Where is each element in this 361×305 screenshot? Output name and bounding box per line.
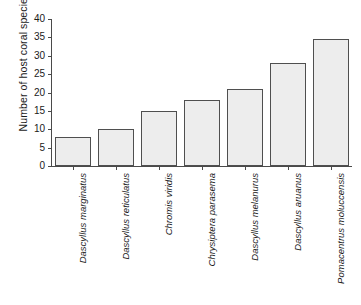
y-tick-label: 20 xyxy=(34,88,45,98)
bar xyxy=(313,39,349,166)
plot-area: 0510152025303540 Dascyllus marginatusDas… xyxy=(52,19,352,166)
x-category-label: Dascyllus aruanus xyxy=(292,173,303,251)
y-tick-label: 15 xyxy=(34,106,45,116)
bar xyxy=(98,129,134,166)
y-tick-label: 40 xyxy=(34,14,45,24)
y-tick-mark xyxy=(48,19,52,20)
bar xyxy=(270,63,306,166)
x-tick-mark xyxy=(245,166,246,170)
bar xyxy=(55,137,91,166)
y-tick-mark xyxy=(48,166,52,167)
y-tick-label: 25 xyxy=(34,69,45,79)
y-axis-title: Number of host coral species xyxy=(17,0,29,147)
y-tick-label: 10 xyxy=(34,124,45,134)
y-tick-mark xyxy=(48,93,52,94)
bar xyxy=(227,89,263,166)
y-tick-mark xyxy=(48,111,52,112)
x-tick-mark xyxy=(288,166,289,170)
y-tick-label: 35 xyxy=(34,32,45,42)
x-tick-mark xyxy=(116,166,117,170)
y-tick-mark xyxy=(48,37,52,38)
x-tick-mark xyxy=(202,166,203,170)
y-tick-label: 0 xyxy=(39,161,45,171)
x-tick-mark xyxy=(159,166,160,170)
x-category-label: Chrysiptera parasema xyxy=(206,173,217,266)
x-category-label: Pomacentrus moluccensis xyxy=(335,173,346,284)
x-category-label: Dascyllus melanurus xyxy=(249,173,260,261)
y-tick-mark xyxy=(48,148,52,149)
bar xyxy=(184,100,220,166)
x-category-label: Dascyllus reticulatus xyxy=(120,173,131,260)
x-tick-mark xyxy=(331,166,332,170)
x-category-label: Chromis viridis xyxy=(163,173,174,235)
y-tick-label: 30 xyxy=(34,51,45,61)
y-tick-label: 5 xyxy=(39,143,45,153)
y-tick-mark xyxy=(48,74,52,75)
y-tick-mark xyxy=(48,56,52,57)
bar xyxy=(141,111,177,166)
y-tick-mark xyxy=(48,129,52,130)
bar-chart-figure: Number of host coral species 05101520253… xyxy=(0,0,361,305)
x-tick-mark xyxy=(73,166,74,170)
x-category-label: Dascyllus marginatus xyxy=(77,173,88,263)
